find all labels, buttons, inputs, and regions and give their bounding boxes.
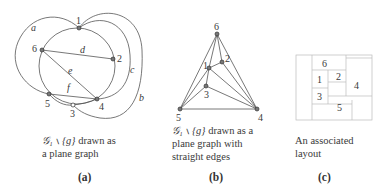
b-vertex-label-1: 1	[203, 59, 208, 72]
edge-label-b: b	[139, 91, 144, 104]
edge-3-4	[206, 86, 257, 109]
caption-a-math: 𝒢₁ ∖ {g}	[42, 135, 76, 146]
caption-c: An associated layout	[295, 134, 354, 160]
caption-c-text2: layout	[295, 148, 321, 159]
vertex-label-5: 5	[45, 97, 50, 110]
outer-triangle	[180, 34, 257, 109]
b-vertex-label-3: 3	[204, 88, 209, 101]
vertex-6	[40, 48, 44, 52]
edge-label-d: d	[80, 43, 85, 56]
vertex-5	[47, 92, 51, 96]
edge-6-1	[209, 34, 217, 68]
room-label-2: 2	[336, 70, 341, 83]
edge-2-4	[222, 62, 257, 109]
panel-label-c: (c)	[318, 171, 331, 183]
panel-label-a: (a)	[78, 171, 91, 183]
vertex-2	[220, 60, 224, 64]
edge-label-e: e	[68, 64, 72, 77]
room-label-5: 5	[337, 101, 342, 114]
vertex-2	[111, 57, 115, 61]
b-vertex-label-5: 5	[176, 111, 181, 124]
vertex-label-3: 3	[70, 107, 75, 120]
caption-a-text1: drawn as	[76, 135, 116, 146]
vertex-label-1: 1	[76, 14, 81, 27]
edge-1-4	[209, 68, 257, 109]
vertex-label-6: 6	[32, 42, 37, 55]
caption-b: 𝒢₁ ∖ {g} drawn as a plane graph with str…	[172, 124, 253, 163]
caption-b-text1: drawn as a	[206, 125, 254, 136]
edge-label-a: a	[31, 21, 36, 34]
edge-3-5	[180, 86, 206, 109]
room-label-1: 1	[317, 73, 322, 86]
vertex-label-4: 4	[99, 100, 104, 113]
b-vertex-label-6: 6	[214, 20, 219, 33]
caption-c-text1: An associated	[295, 135, 354, 146]
caption-b-text3: straight edges	[172, 151, 230, 162]
edge-c	[79, 21, 130, 99]
caption-a: 𝒢₁ ∖ {g} drawn as a plane graph	[42, 134, 116, 160]
caption-b-math: 𝒢₁ ∖ {g}	[172, 125, 206, 136]
b-vertex-label-4: 4	[258, 111, 263, 124]
vertex-label-2: 2	[117, 52, 122, 65]
layout-outer	[296, 55, 372, 120]
edge-label-f: f	[67, 81, 70, 94]
edge-label-c: c	[130, 63, 134, 76]
room-label-3: 3	[317, 90, 322, 103]
caption-a-text2: a plane graph	[42, 148, 99, 159]
figure-canvas	[0, 0, 387, 193]
room-label-6: 6	[322, 57, 327, 70]
edge-d	[42, 50, 113, 59]
caption-b-text2: plane graph with	[172, 138, 243, 149]
panel-label-b: (b)	[209, 171, 223, 183]
room-label-4: 4	[354, 79, 359, 92]
b-vertex-label-2: 2	[225, 52, 230, 65]
panel-b-graph	[180, 34, 257, 109]
panel-c-layout	[296, 55, 372, 120]
